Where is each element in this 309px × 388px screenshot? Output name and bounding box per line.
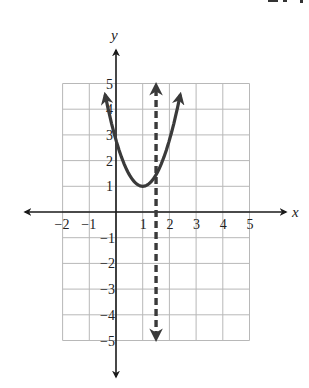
y-tick-label: 1 <box>106 179 113 194</box>
x-tick-label: 3 <box>193 217 200 232</box>
x-tick-label: 4 <box>220 217 227 232</box>
y-axis-label: y <box>109 27 118 43</box>
x-axis-label: x <box>291 204 299 220</box>
y-tick-label: 2 <box>106 154 113 169</box>
x-tick-label: 2 <box>166 217 173 232</box>
x-tick-label: −1 <box>81 217 96 232</box>
y-tick-label: −3 <box>100 282 115 297</box>
cropped-heading-fragment <box>268 0 303 3</box>
graph: xy −2−11234554321−1−2−3−4−5 <box>0 0 309 388</box>
x-tick-label: 1 <box>140 217 147 232</box>
y-tick-label: −5 <box>100 334 115 349</box>
y-tick-label: −4 <box>100 308 115 323</box>
y-tick-label: −2 <box>100 256 115 271</box>
axes: xy <box>25 27 299 377</box>
y-tick-label: −1 <box>100 231 115 246</box>
x-tick-label: −2 <box>55 217 70 232</box>
y-tick-label: 5 <box>106 77 113 92</box>
x-tick-label: 5 <box>247 217 254 232</box>
